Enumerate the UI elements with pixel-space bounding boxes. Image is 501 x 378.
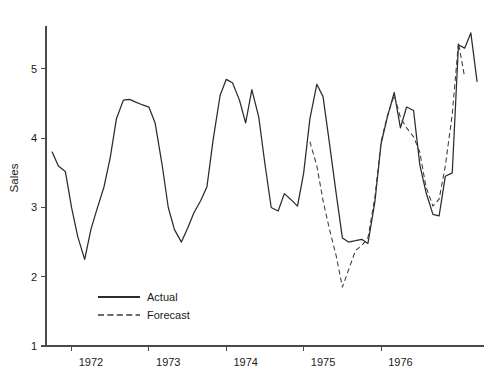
- y-tick-label: 3: [31, 201, 37, 213]
- x-tick-label: 1973: [156, 356, 180, 368]
- x-tick-label: 1972: [79, 356, 103, 368]
- series-line-actual: [52, 33, 477, 259]
- x-tick-label: 1976: [388, 356, 412, 368]
- y-tick-label: 5: [31, 63, 37, 75]
- x-tick-label: 1974: [233, 356, 257, 368]
- y-axis-title: Sales: [8, 163, 20, 192]
- chart-legend: ActualForecast: [98, 291, 190, 321]
- legend-label-forecast: Forecast: [147, 309, 190, 321]
- y-tick-label: 1: [31, 340, 37, 352]
- sales-forecast-chart: 12345 19721973197419751976 Sales ActualF…: [0, 0, 501, 378]
- chart-canvas: 12345 19721973197419751976 Sales ActualF…: [0, 0, 501, 378]
- y-tick-label: 2: [31, 271, 37, 283]
- y-axis-ticks: 12345: [31, 63, 46, 352]
- legend-label-actual: Actual: [147, 291, 178, 303]
- x-tick-label: 1975: [311, 356, 335, 368]
- y-tick-label: 4: [31, 132, 37, 144]
- series-group: [52, 33, 477, 287]
- x-axis-ticks: 19721973197419751976: [72, 346, 413, 368]
- series-line-forecast: [310, 43, 465, 288]
